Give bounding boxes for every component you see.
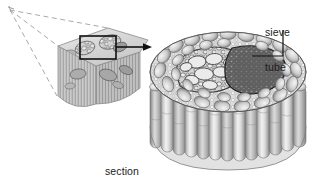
section-from-stem-label: section from a stem [105,143,139,195]
sieve-tube-label: sieve tube [265,4,290,85]
sieve-tube-label-line2: tube [265,62,290,74]
sieve-tube-label-line1: sieve [265,27,290,39]
section-label-line1: section [105,166,139,178]
stem-section-figure [0,0,310,195]
